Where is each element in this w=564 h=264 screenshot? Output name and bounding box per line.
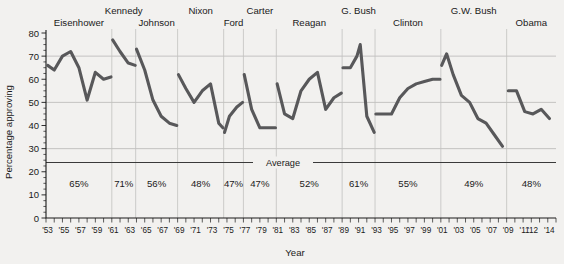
x-tick-label-65: '65 xyxy=(141,226,152,235)
x-tick-label-12: '12 xyxy=(527,226,538,235)
y-axis-ticks xyxy=(42,33,47,218)
president-label-nixon: Nixon xyxy=(188,5,213,16)
approval-line-g-w-bush xyxy=(442,54,503,147)
president-average-percent-labels: 65%71%56%48%47%47%52%61%55%49%48% xyxy=(69,178,541,189)
y-tick-label-60: 60 xyxy=(28,74,39,85)
average-percent-nixon: 48% xyxy=(191,178,211,189)
chart-canvas: Average 01020304050607080 '53'55'57'59'6… xyxy=(0,0,564,264)
x-axis-title: Year xyxy=(285,247,305,258)
horizontal-gridlines xyxy=(46,56,556,149)
y-tick-label-10: 10 xyxy=(28,189,39,200)
approval-line-carter xyxy=(244,75,275,128)
presidential-approval-chart: Average 01020304050607080 '53'55'57'59'6… xyxy=(0,0,564,264)
x-tick-label-55: '55 xyxy=(59,226,70,235)
average-line-label: Average xyxy=(266,158,300,168)
average-percent-johnson: 56% xyxy=(147,178,167,189)
x-tick-label-07: '07 xyxy=(486,226,497,235)
y-tick-label-30: 30 xyxy=(28,143,39,154)
president-label-g-w-bush: G.W. Bush xyxy=(451,5,497,16)
president-label-carter: Carter xyxy=(247,5,274,16)
average-percent-obama: 48% xyxy=(522,178,542,189)
x-tick-label-71: '71 xyxy=(190,226,201,235)
x-tick-label-61: '61 xyxy=(108,226,119,235)
president-label-eisenhower: Eisenhower xyxy=(54,17,105,28)
average-percent-g-bush: 61% xyxy=(349,178,369,189)
x-tick-label-99: '99 xyxy=(421,226,432,235)
x-tick-label-91: '91 xyxy=(355,226,366,235)
average-percent-kennedy: 71% xyxy=(114,178,134,189)
x-tick-label-09: '09 xyxy=(503,226,514,235)
y-axis-title: Percentage approving xyxy=(3,85,14,179)
x-axis-tick-labels: '53'55'57'59'61'63'65'67'69'71'73'75'77'… xyxy=(42,226,555,235)
approval-line-kennedy xyxy=(113,40,136,65)
approval-line-eisenhower xyxy=(48,52,111,101)
x-tick-label-53: '53 xyxy=(42,226,53,235)
average-line-group: Average xyxy=(46,157,556,169)
x-tick-label-63: '63 xyxy=(124,226,135,235)
average-percent-eisenhower: 65% xyxy=(69,178,89,189)
average-percent-clinton: 55% xyxy=(398,178,418,189)
x-tick-label-01: '01 xyxy=(437,226,448,235)
average-percent-reagan: 52% xyxy=(300,178,320,189)
president-label-ford: Ford xyxy=(224,17,244,28)
president-name-labels: EisenhowerKennedyJohnsonNixonFordCarterR… xyxy=(54,5,548,28)
x-tick-label-14: '14 xyxy=(544,226,555,235)
x-tick-label-03: '03 xyxy=(453,226,464,235)
president-label-g-bush: G. Bush xyxy=(341,5,376,16)
president-label-obama: Obama xyxy=(516,17,548,28)
president-label-clinton: Clinton xyxy=(393,17,423,28)
y-tick-label-20: 20 xyxy=(28,166,39,177)
y-axis-tick-labels: 01020304050607080 xyxy=(28,28,39,224)
approval-line-reagan xyxy=(277,72,341,118)
x-tick-label-69: '69 xyxy=(174,226,185,235)
y-tick-label-40: 40 xyxy=(28,120,39,131)
x-tick-label-85: '85 xyxy=(305,226,316,235)
axes xyxy=(46,30,556,218)
y-tick-label-50: 50 xyxy=(28,97,39,108)
y-tick-label-0: 0 xyxy=(34,213,39,224)
average-percent-carter: 47% xyxy=(250,178,270,189)
x-tick-label-73: '73 xyxy=(207,226,218,235)
x-tick-label-87: '87 xyxy=(322,226,333,235)
x-axis-ticks xyxy=(46,218,556,223)
y-tick-label-80: 80 xyxy=(28,28,39,39)
x-tick-label-57: '57 xyxy=(75,226,86,235)
x-tick-label-79: '79 xyxy=(256,226,267,235)
approval-line-obama xyxy=(508,91,549,119)
x-tick-label-83: '83 xyxy=(289,226,300,235)
axis-lines xyxy=(46,30,556,218)
x-tick-label-89: '89 xyxy=(338,226,349,235)
approval-line-nixon xyxy=(178,75,222,128)
x-tick-label-05: '05 xyxy=(470,226,481,235)
approval-line-g-bush xyxy=(343,45,374,133)
approval-line-ford xyxy=(225,102,243,132)
president-label-johnson: Johnson xyxy=(138,17,174,28)
x-tick-label-81: '81 xyxy=(272,226,283,235)
x-tick-label-59: '59 xyxy=(92,226,103,235)
approval-line-clinton xyxy=(376,79,440,114)
president-label-kennedy: Kennedy xyxy=(105,5,143,16)
president-label-reagan: Reagan xyxy=(292,17,326,28)
x-tick-label-77: '77 xyxy=(240,226,251,235)
approval-line-johnson xyxy=(136,49,176,125)
x-tick-label-67: '67 xyxy=(157,226,168,235)
x-tick-label-95: '95 xyxy=(388,226,399,235)
x-tick-label-75: '75 xyxy=(223,226,234,235)
x-tick-label-97: '97 xyxy=(404,226,415,235)
average-percent-ford: 47% xyxy=(224,178,244,189)
y-tick-label-70: 70 xyxy=(28,51,39,62)
x-tick-label-93: '93 xyxy=(371,226,382,235)
average-percent-g-w-bush: 49% xyxy=(464,178,484,189)
